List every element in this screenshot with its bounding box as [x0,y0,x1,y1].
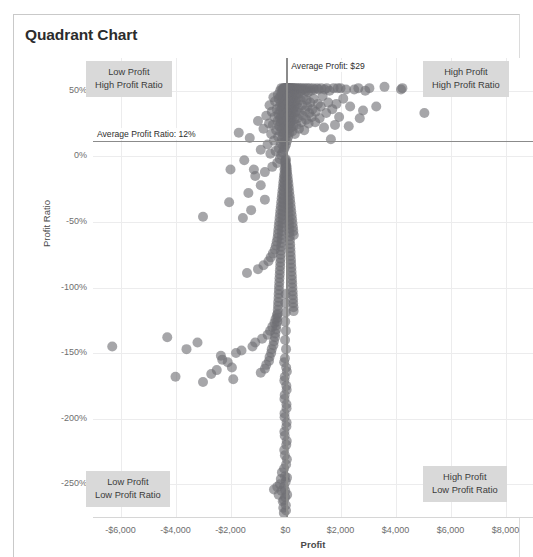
quadrant-label-top-right: High Profit High Profit Ratio [423,61,509,97]
quadrant-label-line2: Low Profit Ratio [432,484,498,497]
x-axis-title: Profit [93,539,533,550]
y-axis-tick: 0% [27,150,87,160]
x-axis-line [93,517,533,518]
quadrant-label-line2: Low Profit Ratio [95,489,161,502]
y-axis-tick: -50% [27,216,87,226]
y-axis-tick: 50% [27,85,87,95]
screenshot-root: Quadrant Chart 50%0%-50%-100%-150%-200%-… [0,0,533,557]
y-axis-tick: -200% [27,413,87,423]
y-axis-tick: -100% [27,282,87,292]
quadrant-label-line2: High Profit Ratio [95,79,163,92]
quadrant-label-line2: High Profit Ratio [432,79,500,92]
scatter-marks [107,82,491,517]
y-axis-title: Profit Ratio [41,200,52,247]
y-axis-tick: -150% [27,347,87,357]
viz-container: Quadrant Chart 50%0%-50%-100%-150%-200%-… [13,14,520,557]
quadrant-label-line1: High Profit [432,66,500,79]
quadrant-label-bottom-left: Low Profit Low Profit Ratio [86,471,170,507]
average-profit-ratio-reference-line [93,141,533,142]
average-profit-reference-label: Average Profit: $29 [289,60,366,72]
quadrant-label-bottom-right: High Profit Low Profit Ratio [423,466,507,502]
page-title: Quadrant Chart [25,26,137,44]
quadrant-label-top-left: Low Profit High Profit Ratio [86,61,172,97]
average-profit-ratio-reference-label: Average Profit Ratio: 12% [95,128,198,140]
horizontal-gridlines [93,92,533,485]
x-axis-tick: $8,000 [471,525,533,535]
quadrant-label-line1: Low Profit [95,476,161,489]
y-axis-tick: -250% [27,478,87,488]
quadrant-label-line1: Low Profit [95,66,163,79]
average-profit-reference-line [286,58,287,517]
quadrant-label-line1: High Profit [432,471,498,484]
